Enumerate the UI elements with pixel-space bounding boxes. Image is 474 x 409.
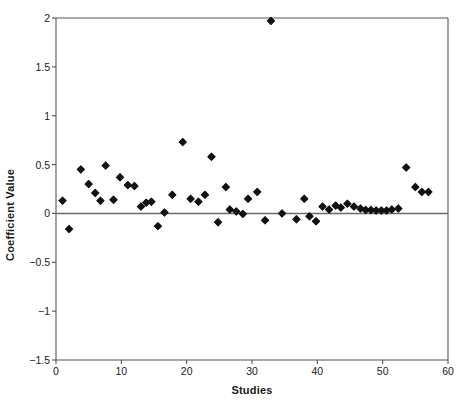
plot-canvas <box>0 0 474 409</box>
data-point-markers <box>59 17 432 232</box>
axis-frame <box>56 18 448 360</box>
scatter-plot-figure: Coefficient Value 21.510.50−0.5−1−1.5 01… <box>0 0 474 409</box>
axis-tick-marks <box>52 18 448 364</box>
